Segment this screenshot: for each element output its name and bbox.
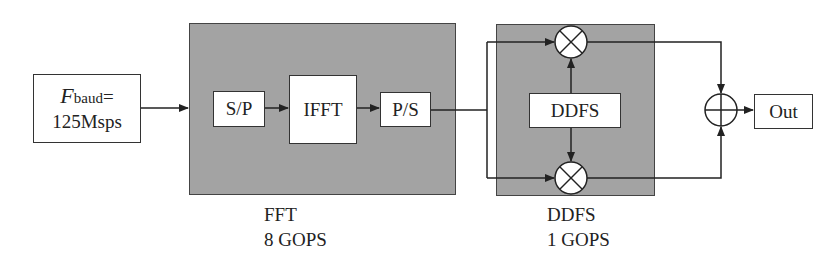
sp-box: S/P bbox=[213, 91, 265, 127]
fft-caption-name: FFT bbox=[264, 203, 297, 227]
fft-caption-ops: 8 GOPS bbox=[264, 228, 327, 252]
mixer-bottom-icon bbox=[555, 162, 587, 194]
ps-box: P/S bbox=[380, 92, 431, 127]
input-rate-symbol: Fbaud= bbox=[60, 84, 113, 110]
mixer-top-icon bbox=[555, 26, 587, 58]
ddfs-caption-ops: 1 GOPS bbox=[547, 228, 610, 252]
output-box: Out bbox=[754, 94, 813, 129]
input-rate-value: 125Msps bbox=[52, 110, 122, 134]
ifft-box: IFFT bbox=[289, 75, 357, 144]
ddfs-inner-box: DDFS bbox=[529, 93, 621, 128]
adder-icon bbox=[705, 94, 737, 126]
input-box: Fbaud= 125Msps bbox=[33, 74, 141, 143]
ddfs-caption-name: DDFS bbox=[547, 203, 596, 227]
